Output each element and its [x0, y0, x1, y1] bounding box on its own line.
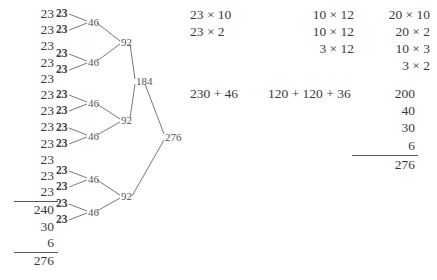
doubling-tree-column: 23 23 23 23 23 23 23 23 23 23 23 23 46 4… [56, 0, 186, 240]
tree-leaf-value: 23 [56, 8, 68, 20]
addend-value: 23 [14, 152, 58, 168]
worksheet-canvas: 23 23 23 23 23 23 23 23 23 23 23 23 240 … [0, 0, 437, 280]
expression-term: 23 × 2 [190, 23, 276, 40]
method-c-terms: 20 × 10 20 × 2 10 × 3 3 × 2 [352, 6, 430, 74]
tree-leaf-value: 23 [56, 138, 68, 150]
partial-product-value: 30 [352, 119, 418, 136]
expression-term: 3 × 2 [352, 57, 430, 74]
tree-node-184: 184 [136, 76, 153, 87]
addend-value-last: 23 [14, 184, 58, 202]
tree-node-46: 46 [88, 174, 99, 185]
tree-leaf-value: 23 [56, 214, 68, 226]
addend-value: 23 [14, 136, 58, 152]
tree-node-92: 92 [121, 115, 132, 126]
tree-node-46: 46 [88, 98, 99, 109]
tree-leaf-value: 23 [56, 122, 68, 134]
partial-product-value: 200 [352, 85, 418, 102]
expression-term: 20 × 10 [352, 6, 430, 23]
addend-value: 23 [14, 168, 58, 184]
addend-value: 23 [14, 22, 58, 38]
partial-product-value: 40 [352, 102, 418, 119]
tree-node-46: 46 [88, 131, 99, 142]
expression-term: 20 × 2 [352, 23, 430, 40]
tree-leaf-value: 23 [56, 89, 68, 101]
expression-term: 10 × 12 [268, 6, 354, 23]
tree-leaf-value: 23 [56, 24, 68, 36]
total-value: 276 [352, 156, 418, 173]
tree-leaf-value: 23 [56, 105, 68, 117]
method-c-sum-column: 200 40 30 6 276 [352, 85, 418, 173]
total-value: 276 [14, 253, 58, 269]
tree-node-46: 46 [88, 17, 99, 28]
partial-sum-value: 30 [14, 219, 58, 235]
tree-leaf-value: 23 [56, 181, 68, 193]
tree-leaf-value: 23 [56, 198, 68, 210]
method-a-terms: 23 × 10 23 × 2 [190, 6, 276, 40]
addend-value: 23 [14, 103, 58, 119]
tree-node-92: 92 [121, 191, 132, 202]
partial-sum-value: 240 [14, 202, 58, 218]
addend-value: 23 [14, 38, 58, 54]
addend-value: 23 [14, 55, 58, 71]
expression-term: 10 × 12 [268, 23, 354, 40]
tree-node-92: 92 [121, 37, 132, 48]
addend-value: 23 [14, 71, 58, 87]
method-b-terms: 10 × 12 10 × 12 3 × 12 [268, 6, 354, 57]
expression-term: 3 × 12 [268, 40, 354, 57]
addend-value: 23 [14, 119, 58, 135]
tree-root-276: 276 [165, 132, 182, 143]
method-a-sum: 230 + 46 [190, 85, 276, 102]
repeated-addition-column: 23 23 23 23 23 23 23 23 23 23 23 23 240 … [14, 6, 58, 269]
tree-leaf-value: 23 [56, 48, 68, 60]
tree-node-46: 46 [88, 207, 99, 218]
expression-term: 10 × 3 [352, 40, 430, 57]
sum-expression: 230 + 46 [190, 85, 276, 102]
tree-node-46: 46 [88, 57, 99, 68]
expression-term: 23 × 10 [190, 6, 276, 23]
partial-sum-value-last: 6 [14, 235, 58, 253]
addend-value: 23 [14, 6, 58, 22]
tree-leaf-value: 23 [56, 64, 68, 76]
partial-product-value-last: 6 [352, 137, 418, 156]
addend-value: 23 [14, 87, 58, 103]
tree-leaf-value: 23 [56, 165, 68, 177]
